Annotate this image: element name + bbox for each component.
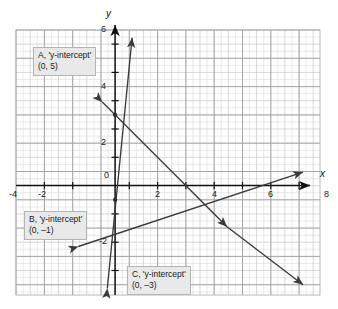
intercept-marker-b bbox=[113, 198, 117, 202]
label-a-line1: A, 'y-intercept' bbox=[38, 50, 91, 61]
x-tick-2: 2 bbox=[155, 189, 160, 199]
label-c-line1: C, 'y-intercept' bbox=[132, 269, 186, 280]
y-axis-label: y bbox=[106, 8, 111, 19]
x-tick-8: 8 bbox=[324, 189, 329, 199]
origin-label: 0 bbox=[104, 170, 109, 180]
label-a: A, 'y-intercept' (0, 5) bbox=[33, 47, 96, 76]
label-a-line2: (0, 5) bbox=[38, 61, 91, 72]
y-tick-2: 2 bbox=[101, 137, 106, 147]
x-tick-6: 6 bbox=[268, 189, 273, 199]
x-tick--4: -4 bbox=[9, 189, 17, 199]
intercept-marker-a bbox=[113, 113, 117, 117]
label-b-line2: (0, –1) bbox=[29, 225, 82, 236]
x-axis-label: x bbox=[320, 168, 325, 179]
graph-figure: x y -4 -2 0 2 4 6 8 6 4 2 -2 A, 'y-inter… bbox=[0, 0, 338, 309]
y-tick--2: -2 bbox=[99, 236, 107, 246]
label-c-line2: (0, –3) bbox=[132, 280, 186, 291]
label-c: C, 'y-intercept' (0, –3) bbox=[127, 266, 191, 295]
y-tick-6: 6 bbox=[101, 24, 106, 34]
label-b: B, 'y-intercept' (0, –1) bbox=[24, 211, 87, 240]
x-tick-4: 4 bbox=[212, 189, 217, 199]
x-tick--2: -2 bbox=[38, 189, 46, 199]
y-tick-4: 4 bbox=[101, 81, 106, 91]
label-b-line1: B, 'y-intercept' bbox=[29, 214, 82, 225]
